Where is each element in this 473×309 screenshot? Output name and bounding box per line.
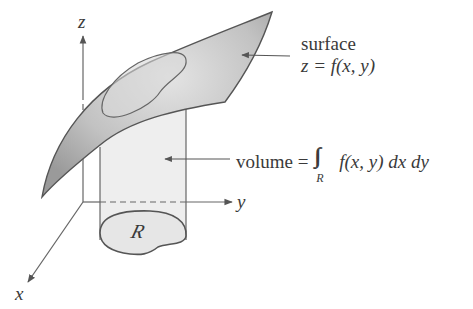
x-axis-label: x [15,284,23,303]
y-axis-label: y [237,192,245,211]
integrand: f(x, y) dx dy [339,151,429,172]
integral-subscript: R [316,172,323,184]
surface-label: surface [301,34,356,53]
z-axis-label: z [78,12,85,31]
volume-prefix: volume = [236,151,313,172]
surface-equation: z = f(x, y) [301,56,375,75]
x-axis [28,202,83,282]
volume-formula: volume = ∫∫ R f(x, y) dx dy [236,148,429,171]
